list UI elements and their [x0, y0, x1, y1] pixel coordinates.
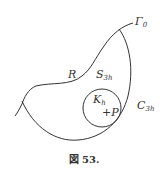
label-c3h: C3h [137, 100, 154, 113]
label-gamma0: Γ0 [135, 16, 147, 29]
figure-caption: 図 53. [0, 151, 168, 166]
arc-c3h [22, 29, 131, 140]
label-s3h: S3h [96, 69, 113, 82]
label-p: +P [102, 107, 119, 118]
label-r: R [68, 69, 76, 80]
figure-53: Γ0 R S3h Kh +P C3h 図 53. [0, 0, 168, 182]
